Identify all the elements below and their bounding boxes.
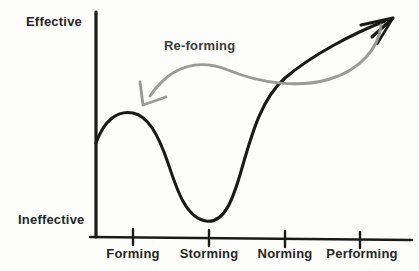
x-axis-label-forming: Forming (106, 246, 159, 261)
effectiveness-curve (96, 21, 385, 221)
x-axis-label-norming: Norming (258, 246, 313, 261)
annotation-label-reforming: Re-forming (164, 38, 235, 53)
diagram-canvas: Effective Ineffective Forming Storming N… (0, 0, 419, 271)
reforming-arc (150, 25, 381, 96)
x-axis (90, 237, 412, 240)
x-axis-label-performing: Performing (326, 246, 397, 261)
y-axis-label-ineffective: Ineffective (18, 212, 85, 227)
y-axis-label-effective: Effective (26, 14, 82, 29)
x-axis-label-storming: Storming (180, 246, 239, 261)
